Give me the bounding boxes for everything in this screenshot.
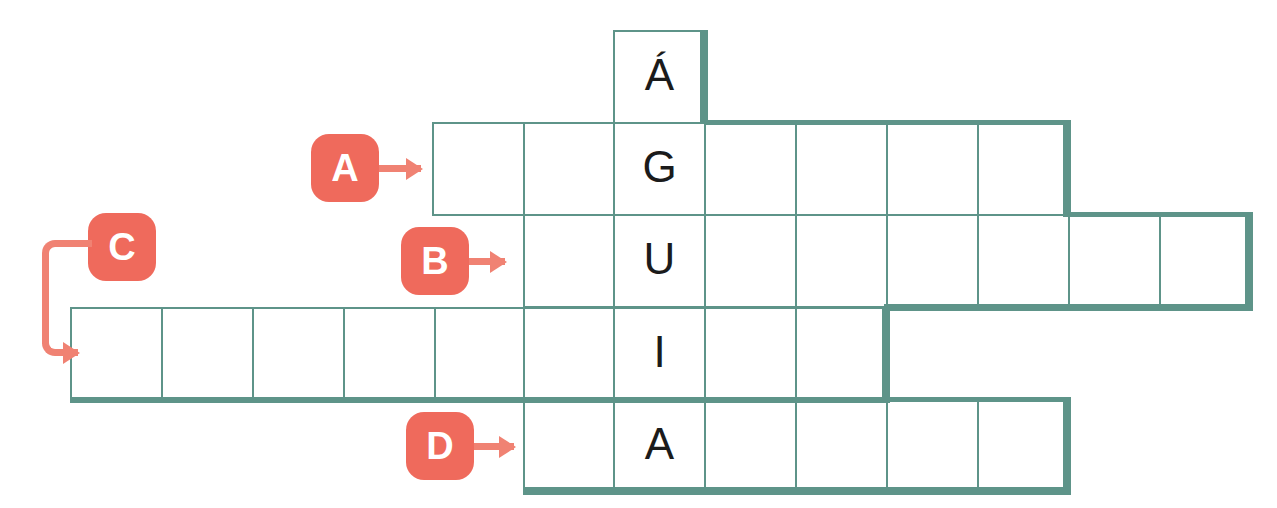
outline-segment xyxy=(523,487,1071,495)
outline-segment xyxy=(1245,214,1253,308)
cell-letter: I xyxy=(653,330,665,374)
grid-cell-row-c-4[interactable] xyxy=(343,307,436,401)
grid-cell-row-c-2[interactable] xyxy=(161,307,254,401)
grid-cell-row-b-8[interactable] xyxy=(1159,214,1252,308)
outline-segment xyxy=(70,397,525,403)
outline-segment xyxy=(884,304,1253,311)
grid-cell-row-c-5[interactable] xyxy=(434,307,527,401)
outline-segment xyxy=(706,120,1071,125)
grid-cell-row-d-1[interactable] xyxy=(523,399,616,493)
grid-cell-row-c-7-key[interactable]: I xyxy=(613,307,706,401)
grid-cell-row-a-3-key[interactable]: G xyxy=(613,122,706,216)
grid-cell-row-a-1[interactable] xyxy=(432,122,525,216)
clue-marker-label: C xyxy=(108,228,135,266)
grid-cell-row-b-2-key[interactable]: U xyxy=(613,214,706,308)
grid-cell-key-a-acute[interactable]: Á xyxy=(613,30,706,124)
outline-segment xyxy=(1063,122,1071,216)
clue-connector-c-horizontal xyxy=(64,240,92,247)
grid-cell-row-d-4[interactable] xyxy=(795,399,888,493)
clue-marker-b[interactable]: B xyxy=(401,227,469,295)
grid-cell-row-d-6[interactable] xyxy=(977,399,1070,493)
clue-marker-d[interactable]: D xyxy=(406,412,474,480)
cell-letter: U xyxy=(644,237,676,281)
clue-marker-c[interactable]: C xyxy=(88,213,156,281)
grid-cell-row-a-2[interactable] xyxy=(523,122,616,216)
grid-cell-row-c-6[interactable] xyxy=(523,307,616,401)
clue-arrow-a-icon xyxy=(379,165,421,172)
outline-segment xyxy=(886,397,1071,402)
cell-letter: G xyxy=(642,145,676,189)
grid-cell-row-c-1[interactable] xyxy=(70,307,163,401)
grid-cell-row-b-7[interactable] xyxy=(1068,214,1161,308)
grid-cell-row-d-3[interactable] xyxy=(704,399,797,493)
grid-cell-row-a-5[interactable] xyxy=(795,122,888,216)
outline-segment xyxy=(1063,399,1071,493)
grid-cell-row-c-3[interactable] xyxy=(252,307,345,401)
grid-cell-row-b-5[interactable] xyxy=(886,214,979,308)
grid-cell-row-c-8[interactable] xyxy=(704,307,797,401)
outline-segment xyxy=(1063,212,1253,217)
clue-marker-a[interactable]: A xyxy=(311,134,379,202)
clue-arrow-b-icon xyxy=(469,258,505,265)
clue-marker-label: A xyxy=(331,149,358,187)
cell-letter: Á xyxy=(645,53,674,97)
clue-arrow-d-icon xyxy=(474,443,514,450)
outline-segment xyxy=(882,307,890,401)
grid-cell-row-d-5[interactable] xyxy=(886,399,979,493)
outline-segment xyxy=(700,30,708,124)
grid-cell-row-c-9[interactable] xyxy=(795,307,888,401)
cell-letter: A xyxy=(645,422,674,466)
grid-cell-row-b-3[interactable] xyxy=(704,214,797,308)
outline-segment xyxy=(523,397,890,403)
clue-arrow-c-icon xyxy=(64,349,78,356)
crossword-puzzle-canvas: Á G U I A xyxy=(0,0,1277,508)
grid-cell-row-a-4[interactable] xyxy=(704,122,797,216)
grid-cell-row-b-1[interactable] xyxy=(523,214,616,308)
grid-cell-row-b-4[interactable] xyxy=(795,214,888,308)
clue-marker-label: B xyxy=(421,242,448,280)
grid-cell-row-d-2-key[interactable]: A xyxy=(613,399,706,493)
grid-cell-row-b-6[interactable] xyxy=(977,214,1070,308)
clue-marker-label: D xyxy=(426,427,453,465)
grid-cell-row-a-6[interactable] xyxy=(886,122,979,216)
grid-cell-row-a-7[interactable] xyxy=(977,122,1070,216)
